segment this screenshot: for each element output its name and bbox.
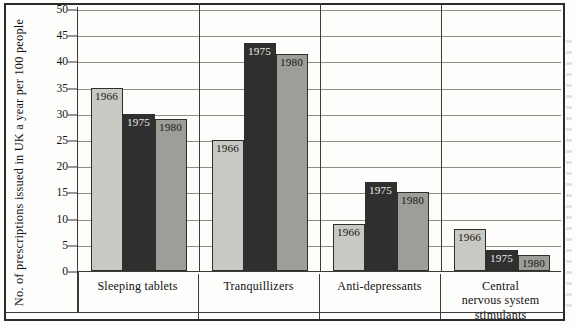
bar-year-label: 1975 <box>490 253 513 264</box>
bar: 1980 <box>397 192 429 271</box>
y-axis-tick-mark <box>68 167 77 168</box>
bar: 1975 <box>244 43 276 271</box>
y-axis-tick-label: 40 <box>34 57 68 69</box>
scan-artifact <box>566 40 572 310</box>
y-axis-tick-labels: 50454035302520151050 <box>34 10 68 272</box>
bar: 1975 <box>486 250 518 271</box>
bar-year-label: 1975 <box>127 117 150 128</box>
y-axis-tick-label: 20 <box>34 161 68 173</box>
y-axis-tick-label: 30 <box>34 109 68 121</box>
bar-group: 196619751980 <box>212 9 308 271</box>
bar: 1980 <box>276 54 308 271</box>
y-axis-tick-mark <box>68 193 77 194</box>
label-baseline <box>6 312 563 313</box>
bar: 1980 <box>518 255 550 271</box>
y-axis-tick-label: 5 <box>34 240 68 252</box>
y-axis-tick-mark <box>68 219 77 220</box>
bar-chart-figure: No. of prescriptions issued in UK a year… <box>0 0 575 327</box>
category-label: Sleeping tablets <box>97 279 177 293</box>
bar: 1966 <box>333 224 365 271</box>
bar-year-label: 1975 <box>248 46 271 57</box>
bar-year-label: 1966 <box>95 91 118 102</box>
y-axis-title: No. of prescriptions issued in UK a year… <box>13 18 28 305</box>
bar-year-label: 1980 <box>401 195 424 206</box>
group-divider <box>320 3 321 272</box>
group-divider <box>441 3 442 272</box>
bar-year-label: 1966 <box>216 143 239 154</box>
bar: 1966 <box>212 140 244 271</box>
bar-year-label: 1966 <box>458 232 481 243</box>
y-axis-tick-mark <box>68 62 77 63</box>
y-axis-tick-mark <box>68 10 77 11</box>
bar-group: 196619751980 <box>91 9 187 271</box>
y-axis-tick-label: 45 <box>34 30 68 42</box>
plot-area: 1966197519801966197519801966197519801966… <box>77 7 561 272</box>
category-label: Centralnervous systemstimulants <box>462 279 540 322</box>
bar-year-label: 1980 <box>522 258 545 269</box>
bar: 1966 <box>454 229 486 271</box>
y-axis-tick-label: 50 <box>34 4 68 16</box>
bar-year-label: 1975 <box>369 185 392 196</box>
category-label: Tranquillizers <box>223 279 293 293</box>
bar: 1980 <box>155 119 187 271</box>
bar-year-label: 1980 <box>280 57 303 68</box>
y-axis-tick-mark <box>68 36 77 37</box>
y-axis-tick-mark <box>68 272 77 273</box>
plot-inner: 1966197519801966197519801966197519801966… <box>78 10 561 271</box>
bar-group: 196619751980 <box>454 9 550 271</box>
axis-left-extension <box>77 272 79 313</box>
y-axis-tick-label: 15 <box>34 188 68 200</box>
y-axis-tick-label: 10 <box>34 214 68 226</box>
bar: 1966 <box>91 88 123 271</box>
y-axis-tick-label: 35 <box>34 83 68 95</box>
y-axis-tick-label: 25 <box>34 135 68 147</box>
group-divider <box>199 3 200 272</box>
y-axis-tick-mark <box>68 88 77 89</box>
bar: 1975 <box>365 182 397 271</box>
bar: 1975 <box>123 114 155 271</box>
y-axis-tick-mark <box>68 141 77 142</box>
bar-year-label: 1966 <box>337 227 360 238</box>
bar-group: 196619751980 <box>333 9 429 271</box>
y-axis-tick-label: 0 <box>34 266 68 278</box>
y-axis-tick-mark <box>68 114 77 115</box>
category-label: Anti-depressants <box>337 279 421 293</box>
y-axis-tick-mark <box>68 245 77 246</box>
bar-year-label: 1980 <box>159 122 182 133</box>
y-axis-title-container: No. of prescriptions issued in UK a year… <box>6 5 34 319</box>
